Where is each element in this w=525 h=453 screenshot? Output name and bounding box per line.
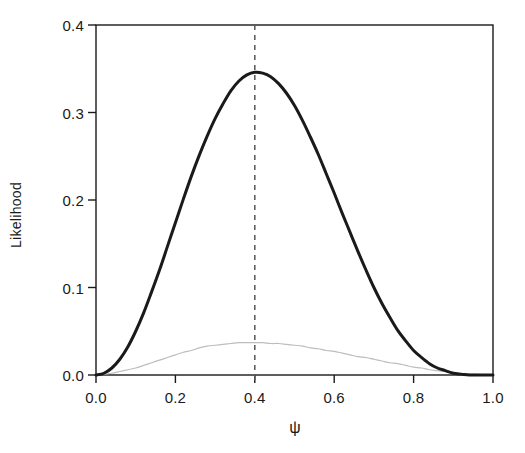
x-tick-label: 0.0 [85, 389, 106, 406]
x-axis-ticks [96, 375, 493, 383]
plot-box-border [96, 25, 493, 375]
x-tick-label: 0.8 [403, 389, 424, 406]
y-axis-ticks [88, 25, 96, 375]
likelihood-plot-figure: 0.00.10.20.30.4 0.00.20.40.60.81.0 Likel… [0, 0, 525, 453]
y-tick-label: 0.2 [36, 192, 84, 209]
plot-canvas [0, 0, 525, 453]
y-axis-label: Likelihood [8, 182, 24, 248]
plot-frame [96, 25, 493, 375]
y-tick-label: 0.1 [36, 279, 84, 296]
y-tick-label: 0.3 [36, 104, 84, 121]
x-tick-label: 0.6 [323, 389, 344, 406]
x-tick-label: 0.4 [244, 389, 265, 406]
data-series-lines [96, 72, 493, 375]
x-tick-label: 1.0 [482, 389, 503, 406]
series-line-likelihood-secondary-faint [96, 343, 493, 376]
y-tick-label: 0.4 [36, 17, 84, 34]
series-line-likelihood-main [96, 72, 493, 375]
y-tick-label: 0.0 [36, 367, 84, 384]
x-tick-label: 0.2 [165, 389, 186, 406]
x-axis-label: ψ [289, 419, 300, 437]
